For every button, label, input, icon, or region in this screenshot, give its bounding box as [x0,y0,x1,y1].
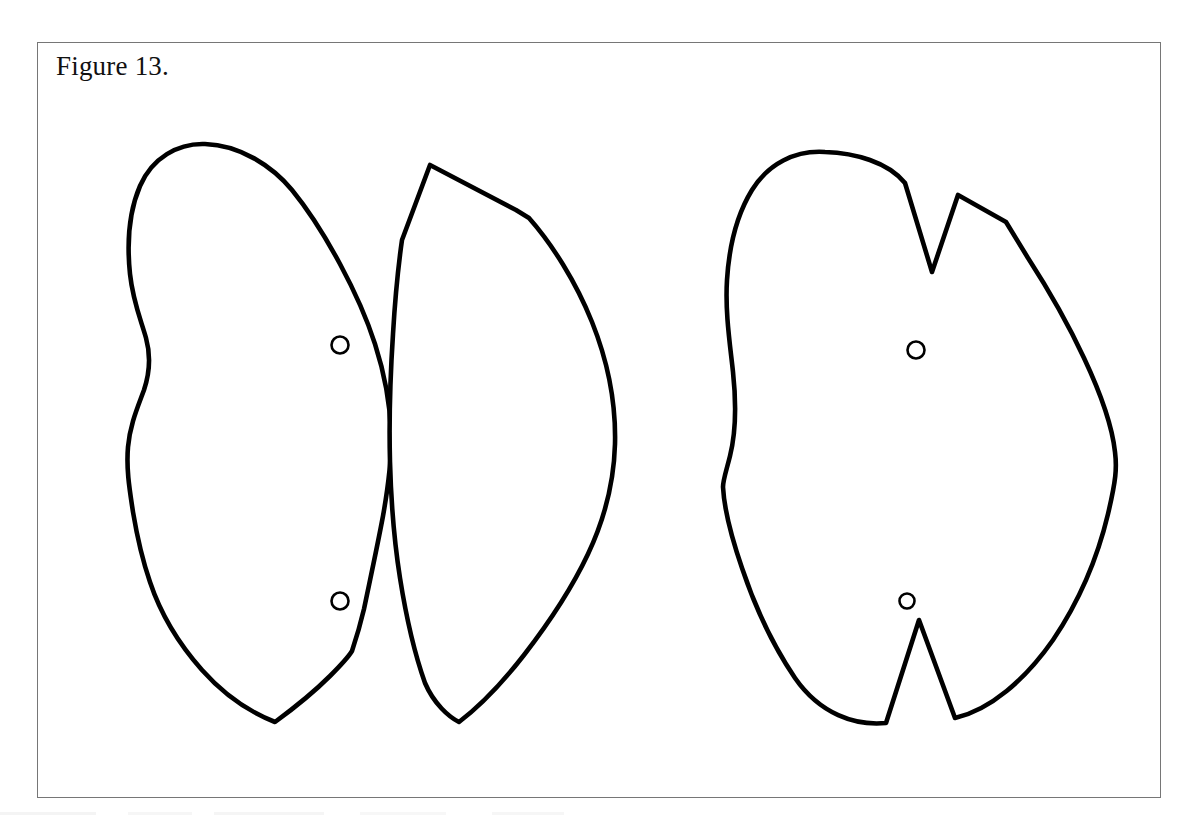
scan-speckle [492,812,564,815]
scan-speckle [0,812,96,815]
page-root: Figure 13. [0,0,1194,827]
hole-marker-circle [908,342,925,359]
hole-marker-circle [900,594,915,609]
panel-outlines-group [127,144,1115,723]
hole-marker-circle [332,593,349,610]
left-panel-outline [127,144,391,722]
figure-drawing-canvas [0,0,1194,827]
middle-panel-outline [390,165,615,722]
scan-speckle [360,812,446,815]
scan-speckle [214,812,324,815]
scan-speckle [128,812,192,815]
right-panel-outline [723,152,1116,724]
hole-marker-circle [332,337,349,354]
